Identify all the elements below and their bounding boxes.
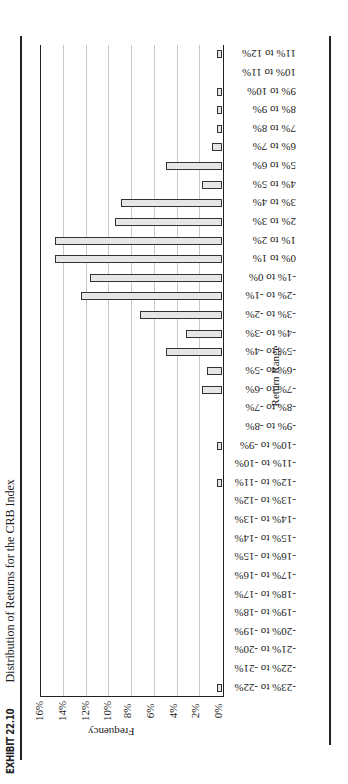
chart-title: EXHIBIT 22.10 Distribution of Returns fo… — [3, 479, 18, 774]
category-label: 2% to 3% — [253, 216, 296, 228]
bar — [217, 684, 222, 692]
category-label: 9% to 10% — [247, 86, 296, 98]
bar — [121, 199, 222, 207]
category-label: -4% to -3% — [245, 328, 296, 340]
y-tick-label: 14% — [56, 701, 68, 721]
page-left-rule — [20, 36, 22, 760]
category-label: -19% to -18% — [234, 607, 296, 619]
y-tick-label: 6% — [144, 704, 156, 719]
bar — [186, 330, 222, 338]
bar — [90, 274, 222, 282]
category-label: -17% to -16% — [234, 570, 296, 582]
category-label: 7% to 8% — [253, 123, 296, 135]
bar — [140, 311, 222, 319]
category-label: 1% to 2% — [253, 235, 296, 247]
category-label: -11% to -10% — [235, 458, 296, 470]
x-axis-title: Return Range — [269, 346, 281, 407]
y-tick-label: 10% — [101, 701, 113, 721]
bar — [166, 162, 222, 170]
category-label: -3% to -2% — [245, 309, 296, 321]
bar — [217, 442, 222, 450]
category-label: -21% to -20% — [234, 644, 296, 656]
category-label: -9% to -8% — [245, 421, 296, 433]
category-label: -22% to -21% — [234, 663, 296, 675]
bar — [217, 88, 222, 96]
category-label: 10% to 11% — [242, 67, 296, 79]
bar — [115, 218, 222, 226]
category-label: -23% to -22% — [234, 682, 296, 694]
y-tick-label: 0% — [212, 704, 224, 719]
y-tick-label: 4% — [167, 704, 179, 719]
category-label: -2% to -1% — [245, 290, 296, 302]
category-label: -16% to -15% — [234, 551, 296, 563]
bar — [217, 479, 222, 487]
category-label: 11% to 12% — [242, 48, 296, 60]
y-tick-label: 2% — [190, 704, 202, 719]
category-label: -18% to -17% — [234, 589, 296, 601]
category-label: -15% to -14% — [234, 533, 296, 545]
bar — [55, 237, 222, 245]
bar — [81, 292, 222, 300]
category-label: -12% to -11% — [235, 477, 296, 489]
category-label: 0% to 1% — [253, 253, 296, 265]
chart-title-text: Distribution of Returns for the CRB Inde… — [3, 479, 18, 682]
bar — [166, 348, 222, 356]
category-label: -13% to -12% — [234, 495, 296, 507]
exhibit-number: EXHIBIT 22.10 — [4, 709, 17, 774]
bar — [212, 143, 222, 151]
bar — [207, 367, 222, 375]
bar — [202, 386, 222, 394]
bar — [217, 50, 222, 58]
category-label: 8% to 9% — [253, 104, 296, 116]
page-right-rule — [329, 36, 331, 745]
bar — [202, 181, 222, 189]
bar — [217, 106, 222, 114]
plot-frame — [40, 45, 224, 697]
category-label: 6% to 7% — [253, 141, 296, 153]
category-label: -20% to -19% — [234, 626, 296, 638]
category-label: -1% to 0% — [249, 272, 296, 284]
y-axis-title: Frequency — [88, 726, 134, 738]
category-label: 3% to 4% — [253, 197, 296, 209]
y-tick-label: 12% — [79, 701, 91, 721]
category-label: -10% to -9% — [240, 440, 296, 452]
bar — [217, 125, 222, 133]
category-label: -14% to -13% — [234, 514, 296, 526]
bar — [55, 255, 222, 263]
category-label: 5% to 6% — [253, 160, 296, 172]
category-label: 4% to 5% — [253, 179, 296, 191]
y-tick-label: 8% — [121, 704, 133, 719]
y-tick-label: 16% — [33, 701, 45, 721]
